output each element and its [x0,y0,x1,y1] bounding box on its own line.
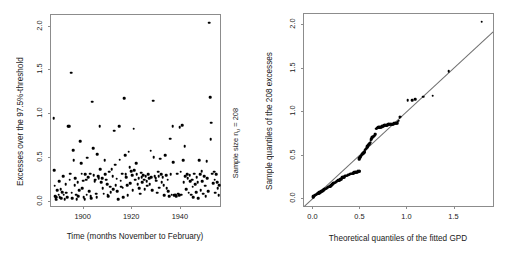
data-point [73,184,76,187]
data-point [218,184,221,187]
data-point [94,178,97,181]
data-point [187,177,190,180]
data-point [358,170,361,173]
data-point [158,186,161,189]
data-point [125,176,128,179]
y-axis-tick-label: 0.0 [35,193,44,207]
data-point [169,137,172,140]
data-point [183,145,186,148]
data-point [107,195,110,198]
data-point [99,168,102,171]
x-axis-tick [454,206,455,209]
y-axis-tick-label: 2.0 [35,18,44,32]
data-point [101,187,104,190]
data-point [217,187,220,190]
data-point [195,191,198,194]
data-point [118,125,121,128]
data-point [153,156,156,159]
data-point [152,100,155,103]
data-point [162,176,165,179]
y-axis-tick [301,111,304,112]
data-point [56,199,59,202]
data-point [111,175,114,178]
data-point [54,185,57,188]
data-point [76,181,79,184]
data-point [71,197,74,200]
right-x-axis-title: Theoretical quantiles of the fitted GPD [329,234,467,243]
data-point [407,99,410,102]
data-point [85,193,88,196]
data-point [90,197,93,200]
data-point [197,197,200,200]
data-point [208,22,211,25]
x-axis-tick-label: 1920 [123,212,139,221]
y-axis-tick [301,198,304,199]
data-point [134,178,137,181]
data-point [91,100,94,103]
data-point [115,178,118,181]
data-point [98,125,101,128]
data-point [117,198,120,201]
data-point [108,171,111,174]
data-point [110,191,113,194]
y-axis-tick-label: 1.5 [35,62,44,76]
data-point [77,195,80,198]
data-point [185,188,188,191]
x-axis-tick [359,206,360,209]
y-axis-tick [48,201,51,202]
data-point [53,169,56,172]
x-axis-tick-label: 0.5 [354,212,364,221]
data-point [448,70,451,73]
data-point [121,172,124,175]
data-point [209,138,212,141]
data-point [112,188,115,191]
data-point [155,179,158,182]
data-point [167,190,170,193]
data-point [126,184,129,187]
data-point [397,120,400,123]
x-axis-tick [83,206,84,209]
data-point [100,181,103,184]
data-point [65,192,68,195]
y-axis-tick-label: 0.0 [288,191,297,205]
data-point [157,171,160,174]
left-x-axis-title: Time (months November to February) [67,232,204,241]
data-point [96,153,99,156]
figure-container: Excesses over the 97.5%-threshold Time (… [0,0,509,259]
data-point [110,168,113,171]
data-point [131,189,134,192]
data-point [132,128,135,131]
y-axis-tick-label: 2.0 [288,17,297,31]
data-point [207,190,210,193]
data-point [145,180,148,183]
sample-size-prefix: Sample size n [231,132,240,178]
y-axis-tick [48,26,51,27]
data-point [129,182,132,185]
data-point [135,162,138,165]
sample-size-note: Sample size nu = 208 [231,108,241,178]
x-axis-tick-label: 1.5 [448,212,458,221]
data-point [114,164,117,167]
data-point [119,179,122,182]
x-axis-tick [180,206,181,209]
left-y-axis-title: Excesses over the 97.5%-threshold [16,36,25,186]
data-point [172,161,175,164]
data-point [133,169,136,172]
data-point [72,149,75,152]
data-point [128,166,131,169]
y-axis-tick [301,155,304,156]
data-point [432,94,435,97]
data-point [217,194,220,197]
data-point [81,187,84,190]
y-axis-tick-label: 0.5 [35,149,44,163]
data-point [198,159,201,162]
data-point [122,196,125,199]
data-point [89,172,92,175]
y-axis-tick [48,113,51,114]
data-point [176,172,179,175]
data-point [199,173,202,176]
data-point [70,72,73,75]
data-point [144,188,147,191]
data-point [124,154,127,157]
data-point [205,160,208,163]
